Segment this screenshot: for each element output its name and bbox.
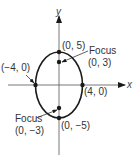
lower-focus-dot: [57, 106, 61, 110]
top-vertex-label: (0, 5): [62, 40, 85, 51]
right-vertex-label: (4, 0): [84, 86, 107, 97]
upper-focus-dot: [57, 60, 61, 64]
ellipse-diagram: y x (0, 5) (4, 0) (−4, 0) (0, −5) Focus …: [0, 0, 139, 161]
top-vertex-dot: [57, 50, 61, 54]
left-vertex-dot: [33, 83, 37, 87]
upper-focus-coords: (0, 3): [88, 57, 111, 68]
y-axis-label: y: [56, 6, 61, 17]
left-vertex-label: (−4, 0): [1, 62, 30, 73]
x-axis-label: x: [127, 79, 132, 90]
bottom-vertex-label: (0, −5): [61, 120, 90, 131]
lower-focus-coords: (0, −3): [15, 125, 44, 136]
lower-focus-title: Focus: [15, 113, 42, 124]
upper-focus-title: Focus: [89, 45, 116, 56]
diagram-canvas: [0, 0, 139, 161]
left-vertex-leader-arrow: [26, 75, 34, 83]
